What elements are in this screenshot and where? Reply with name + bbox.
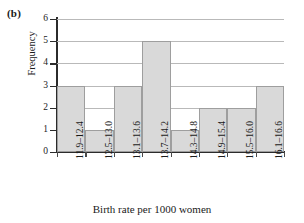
- x-tick-mark: [57, 152, 58, 157]
- y-tick-mark: [50, 63, 56, 64]
- y-tick-label: 2: [36, 103, 48, 112]
- x-tick-label: 14.9–15.4: [217, 121, 227, 159]
- x-tick-mark: [227, 152, 228, 157]
- y-tick-mark: [50, 41, 56, 42]
- x-tick-label: 13.7–14.2: [160, 121, 170, 159]
- x-tick-label: 14.3–14.8: [189, 121, 199, 159]
- x-tick-label: 12.5–13.0: [104, 121, 114, 159]
- x-tick-label: 15.5–16.0: [245, 121, 255, 159]
- x-axis-title: Birth rate per 1000 women: [0, 203, 304, 215]
- y-tick-label: 5: [36, 36, 48, 45]
- y-tick-mark: [50, 152, 56, 153]
- y-tick-label: 0: [36, 147, 48, 156]
- x-tick-mark: [256, 152, 257, 157]
- y-tick-mark: [50, 130, 56, 131]
- y-tick-label: 3: [36, 81, 48, 90]
- y-tick-label: 1: [36, 125, 48, 134]
- x-tick-mark: [199, 152, 200, 157]
- x-tick-label: 11.9–12.4: [75, 121, 85, 159]
- x-tick-label: 16.1–16.6: [274, 121, 284, 159]
- y-tick-mark: [50, 19, 56, 20]
- y-tick-label: 6: [36, 14, 48, 23]
- x-tick-mark: [142, 152, 143, 157]
- y-tick-mark: [50, 86, 56, 87]
- x-tick-mark: [85, 152, 86, 157]
- x-tick-mark: [171, 152, 172, 157]
- y-tick-mark: [50, 108, 56, 109]
- x-tick-label: 13.1–13.6: [132, 121, 142, 159]
- x-tick-mark: [284, 152, 285, 157]
- y-tick-label: 4: [36, 58, 48, 67]
- panel-label: (b): [7, 7, 21, 19]
- y-axis-title: Frequency: [26, 9, 37, 99]
